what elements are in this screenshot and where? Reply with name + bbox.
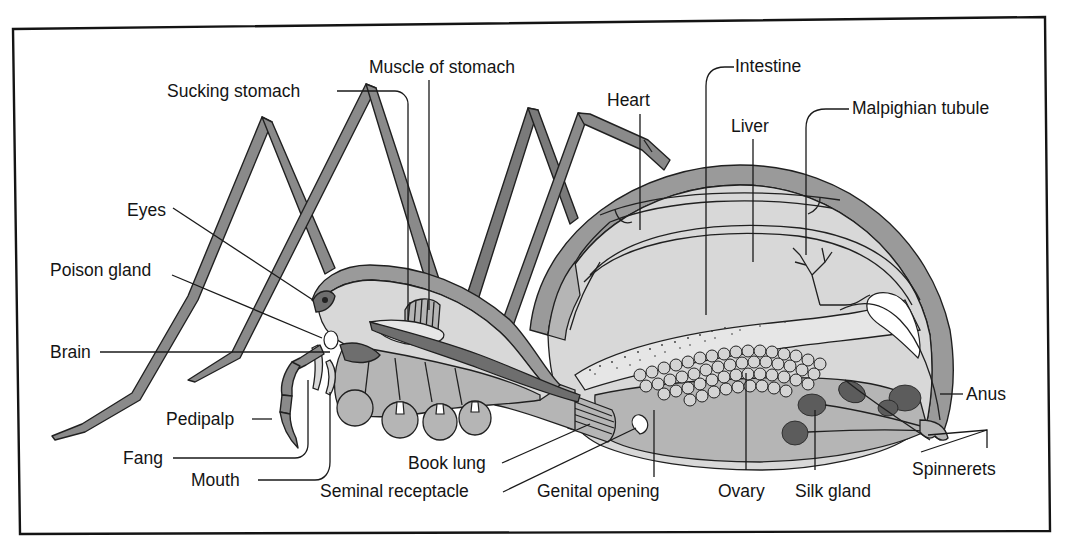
label-mouth: Mouth <box>191 470 240 490</box>
label-anus: Anus <box>966 384 1006 404</box>
label-eyes: Eyes <box>127 200 166 220</box>
label-sucking-stomach: Sucking stomach <box>167 81 300 101</box>
label-book-lung: Book lung <box>408 453 486 473</box>
label-heart: Heart <box>607 90 650 110</box>
spider-anatomy-diagram: Sucking stomach Muscle of stomach Intest… <box>0 0 1067 553</box>
label-malpighian-tubule: Malpighian tubule <box>852 98 989 118</box>
label-genital-opening: Genital opening <box>537 481 660 501</box>
label-brain: Brain <box>50 342 91 362</box>
label-intestine: Intestine <box>735 56 801 76</box>
poison-gland-drawing <box>324 331 338 349</box>
label-muscle-of-stomach: Muscle of stomach <box>369 57 515 77</box>
label-seminal-receptacle: Seminal receptacle <box>320 481 469 501</box>
cephalothorax <box>280 265 580 448</box>
label-spinnerets: Spinnerets <box>912 459 996 479</box>
abdomen <box>530 165 953 470</box>
label-poison-gland: Poison gland <box>50 260 151 280</box>
label-pedipalp: Pedipalp <box>166 409 234 429</box>
label-fang: Fang <box>123 448 163 468</box>
label-liver: Liver <box>731 116 769 136</box>
label-ovary: Ovary <box>718 481 765 501</box>
label-silk-gland: Silk gland <box>795 481 871 501</box>
